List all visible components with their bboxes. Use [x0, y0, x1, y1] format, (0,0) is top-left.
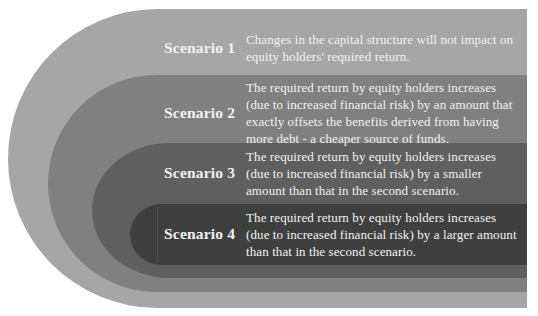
- scenario-2-label: Scenario 2: [164, 104, 246, 122]
- scenario-3-row: Scenario 3 The required return by equity…: [164, 147, 522, 199]
- scenario-2-row: Scenario 2 The required return by equity…: [164, 79, 522, 147]
- scenario-2-description: The required return by equity holders in…: [246, 79, 522, 147]
- scenario-3-description: The required return by equity holders in…: [246, 148, 522, 199]
- scenario-1-row: Scenario 1 Changes in the capital struct…: [164, 30, 522, 66]
- scenario-1-label: Scenario 1: [164, 39, 246, 57]
- scenario-4-label: Scenario 4: [164, 225, 246, 243]
- scenario-1-description: Changes in the capital structure will no…: [246, 31, 522, 65]
- scenario-4-row: Scenario 4 The required return by equity…: [164, 208, 522, 260]
- scenario-4-description: The required return by equity holders in…: [246, 209, 522, 260]
- scenario-3-label: Scenario 3: [164, 164, 246, 182]
- scenario-4-divider: [157, 206, 158, 263]
